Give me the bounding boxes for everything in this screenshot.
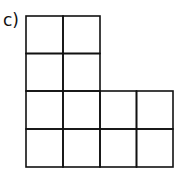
grid-cell bbox=[100, 129, 137, 167]
grid-cell bbox=[137, 91, 174, 129]
grid-cell bbox=[137, 129, 174, 167]
grid-cell bbox=[26, 16, 63, 54]
grid-cell bbox=[26, 54, 63, 92]
grid-cell bbox=[100, 91, 137, 129]
grid-cell bbox=[63, 91, 100, 129]
grid-cell bbox=[63, 16, 100, 54]
l-shape-grid bbox=[0, 0, 180, 176]
grid-cell bbox=[63, 129, 100, 167]
grid-cell bbox=[63, 54, 100, 92]
grid-cell bbox=[26, 91, 63, 129]
grid-cell bbox=[26, 129, 63, 167]
